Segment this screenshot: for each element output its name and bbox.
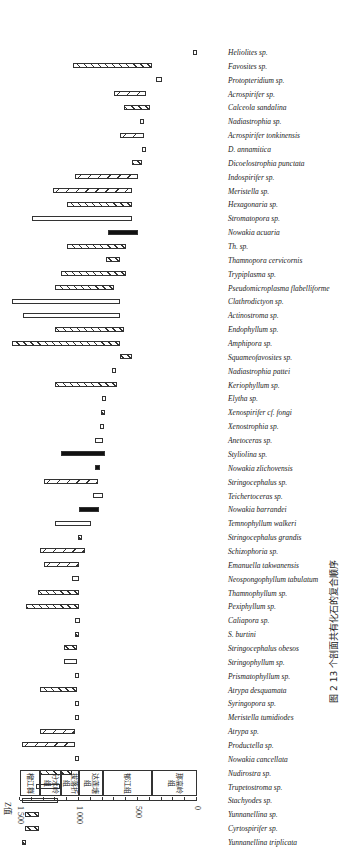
- axis-label: Z值: [3, 802, 14, 815]
- axis-tick: [113, 797, 114, 800]
- taxon-label: Xenostrophia sp.: [228, 422, 279, 431]
- range-bar: [40, 548, 85, 553]
- axis-tick: [196, 797, 197, 800]
- range-bar: [95, 438, 102, 443]
- taxon-label: Nowakia cancellata: [228, 755, 288, 764]
- axis-tick: [102, 797, 103, 800]
- formation-box: 那高岭组: [152, 770, 197, 796]
- formation-box: 郁江组: [103, 770, 153, 796]
- taxon-label: Nadiastrophia pattei: [228, 367, 290, 376]
- tick-label: 1 500: [16, 806, 25, 824]
- range-bar: [93, 493, 102, 498]
- range-bar: [12, 299, 121, 304]
- range-bar: [55, 521, 90, 526]
- taxon-label: Meristella sp.: [228, 187, 269, 196]
- taxon-label: Th. sp.: [228, 242, 248, 251]
- range-bar: [101, 410, 105, 415]
- taxon-label: Nadiastrophia sp.: [228, 117, 281, 126]
- taxon-label: Thamnophyllum sp.: [228, 589, 287, 598]
- taxon-label: Atrypa sp.: [228, 727, 259, 736]
- range-bar: [156, 77, 162, 82]
- taxon-label: Meristella tumidiodes: [228, 713, 294, 722]
- range-bar: [75, 715, 79, 720]
- taxon-label: Atrypa desquamata: [228, 686, 287, 695]
- range-bar: [53, 188, 132, 193]
- range-bar: [108, 230, 138, 235]
- taxon-label: Pexiphyllum sp.: [228, 602, 276, 611]
- range-bar: [55, 327, 123, 332]
- range-bar: [78, 535, 83, 540]
- range-bar: [25, 812, 39, 817]
- range-bar: [75, 701, 79, 706]
- formation-box: 拔落折组: [61, 770, 79, 796]
- axis-tick: [31, 797, 32, 800]
- range-bar: [75, 632, 79, 637]
- taxon-label: Acrospirifer tonkinensis: [228, 131, 300, 140]
- taxon-label: Indospirifer sp.: [228, 173, 274, 182]
- taxon-label: Stringocephalus obesos: [228, 644, 299, 653]
- taxon-label: Nowakia barrandei: [228, 505, 287, 514]
- tick-label: 1 000: [75, 806, 84, 824]
- taxon-label: Nowakia zlichovensis: [228, 464, 293, 473]
- axis-tick: [149, 797, 150, 800]
- range-bar: [95, 465, 100, 470]
- taxon-label: Schizophoria sp.: [228, 547, 278, 556]
- range-bar: [106, 257, 120, 262]
- taxon-label: Emanuella takwanensis: [228, 561, 299, 570]
- formation-box: 榴江群: [20, 770, 40, 796]
- range-bar: [67, 244, 126, 249]
- range-bar: [120, 354, 132, 359]
- range-bar: [55, 382, 116, 387]
- taxon-label: Elytha sp.: [228, 394, 258, 403]
- taxon-label: Stachyodes sp.: [228, 796, 272, 805]
- range-bar: [26, 604, 79, 609]
- range-bar: [44, 479, 98, 484]
- range-bar: [40, 687, 77, 692]
- range-bar: [193, 50, 197, 55]
- taxon-label: Trypiplasma sp.: [228, 270, 276, 279]
- range-bar: [124, 105, 150, 110]
- taxon-label: Neospongophyllum tabulatum: [228, 575, 318, 584]
- taxon-label: Heliolites sp.: [228, 48, 268, 57]
- taxon-label: Calceola sandalina: [228, 103, 287, 112]
- taxon-label: Teichertoceras sp.: [228, 492, 283, 501]
- range-bar: [140, 119, 144, 124]
- tick-label: 0: [193, 806, 202, 810]
- taxon-label: Dicoelostrophia punctata: [228, 159, 305, 168]
- axis-tick: [172, 797, 173, 800]
- figure-caption: 图 2 13 个剖面共有化石的复合顺序: [327, 560, 340, 703]
- range-bar: [102, 396, 106, 401]
- range-bar: [67, 202, 132, 207]
- range-bar: [75, 756, 79, 761]
- axis-tick: [19, 797, 20, 800]
- taxon-label: Thamnopora cervicornis: [228, 256, 302, 265]
- range-bar: [64, 645, 77, 650]
- axis-tick: [161, 797, 162, 800]
- range-bar: [75, 673, 79, 678]
- range-bar: [55, 285, 114, 290]
- taxon-label: Productella sp.: [228, 741, 274, 750]
- taxon-label: Favosites sp.: [228, 62, 267, 71]
- range-bar: [44, 562, 79, 567]
- formation-box: 达莲塘组: [79, 770, 103, 796]
- axis-tick: [66, 797, 67, 800]
- taxon-label: Pseudomicroplasma flabelliforme: [228, 284, 330, 293]
- range-bar: [23, 313, 120, 318]
- taxon-label: Stringophyllum sp.: [228, 658, 285, 667]
- taxon-label: Nowakia acuaria: [228, 228, 280, 237]
- taxon-label: Amphipora sp.: [228, 339, 272, 348]
- taxon-label: Clathrodictyon sp.: [228, 297, 284, 306]
- axis-tick: [137, 797, 138, 800]
- taxon-label: Trupetostroma sp.: [228, 783, 282, 792]
- axis-tick: [125, 797, 126, 800]
- taxon-label: Yunnanellina triplicata: [228, 838, 297, 847]
- range-bar: [132, 160, 141, 165]
- taxon-label: Actinostroma sp.: [228, 311, 279, 320]
- range-bar: [22, 742, 75, 747]
- range-bar: [79, 507, 99, 512]
- axis-tick: [43, 797, 44, 800]
- tick-label: 500: [134, 806, 143, 818]
- taxon-label: S. burtini: [228, 630, 256, 639]
- range-bar: [114, 91, 146, 96]
- taxon-label: Stromatopora sp.: [228, 214, 280, 223]
